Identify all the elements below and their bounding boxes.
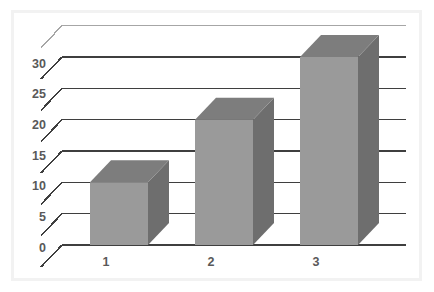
x-tick-label-2: 2 (181, 256, 241, 269)
x-tick-label-3: 3 (286, 256, 346, 269)
x-tick-label-1: 1 (76, 256, 136, 269)
y-tick-label-25: 25 (14, 88, 46, 101)
y-tick-label-0: 0 (14, 242, 46, 255)
bar-2 (195, 98, 274, 245)
y-tick-label-20: 20 (14, 119, 46, 132)
bar-1 (90, 160, 169, 245)
chart-plot-area (0, 0, 434, 292)
y-tick-label-30: 30 (14, 58, 46, 71)
bar-chart: 30 25 20 15 10 5 0 1 2 3 (0, 0, 434, 292)
y-tick-label-5: 5 (14, 211, 46, 224)
bar-3 (300, 35, 379, 245)
bar-group (90, 35, 379, 245)
y-tick-label-15: 15 (14, 150, 46, 163)
y-tick-label-10: 10 (14, 180, 46, 193)
